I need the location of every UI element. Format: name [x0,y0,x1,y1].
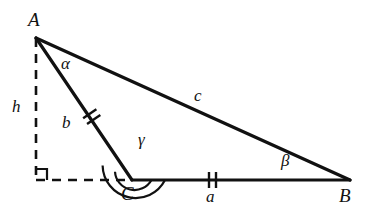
altitude-label-h: h [12,98,21,115]
right-angle-marker [36,169,47,180]
side-label-b: b [62,114,71,131]
vertex-label-b: B [339,186,351,205]
triangle-figure-svg [0,0,369,217]
angle-label-gamma: γ [138,131,145,148]
side-label-c: c [194,87,202,104]
vertex-label-a: A [28,10,40,29]
triangle-diagram: A C B b c a h α γ β [0,0,369,217]
vertex-label-c: C [121,184,134,203]
angle-label-alpha: α [61,55,70,72]
angle-label-beta: β [281,152,289,169]
side-label-a: a [206,188,215,205]
